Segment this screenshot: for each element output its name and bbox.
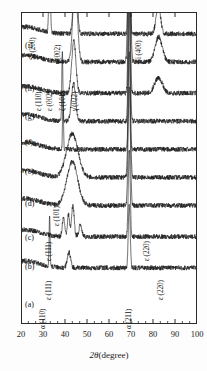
plot-area [21, 12, 197, 324]
x-tick-label-40: 40 [61, 329, 70, 339]
x-tick-label-60: 60 [105, 329, 114, 339]
peak-label-eps-002: ε (002) [46, 91, 54, 111]
x-tick-label-100: 100 [191, 329, 204, 339]
peak-label-eps-220-b: ε (220) [157, 280, 165, 300]
x-axis-label: 2θ(degree) [21, 350, 197, 360]
curve-id-label-i: (i) [25, 41, 33, 50]
peak-label-zeta-101: ζ (101) [59, 91, 67, 111]
peak-label-gamma-002: γ'(002) [54, 45, 62, 64]
curve-id-label-h: (h) [25, 84, 34, 93]
x-axis-tick-labels: 2030405060708090100 [21, 329, 197, 343]
peak-label-alpha-110: α (110) [39, 309, 47, 329]
x-tick-label-30: 30 [39, 329, 48, 339]
peak-label-eps-111-b: ε (111) [45, 281, 53, 300]
x-tick-label-20: 20 [17, 329, 26, 339]
curve-id-label-d: (d) [25, 199, 34, 208]
x-tick-label-80: 80 [149, 329, 158, 339]
curve-id-label-f: (f) [25, 138, 33, 147]
x-axis-label-unit: (degree) [98, 350, 128, 360]
curve-id-label-b: (b) [25, 262, 34, 271]
peak-label-eps-220-c: ε (220) [143, 241, 151, 261]
xrd-plot-svg [21, 12, 197, 324]
peak-label-alpha-211: α (211) [125, 309, 133, 329]
peak-label-si-400: Si (400) [135, 40, 143, 63]
curve-id-label-e: (e) [25, 167, 34, 176]
x-tick-label-90: 90 [171, 329, 180, 339]
xrd-figure: Intensity(arb. units) 203040506070809010… [0, 0, 207, 371]
peak-label-eps-101: ε (101) [53, 206, 61, 226]
peak-label-eps-111-c: ε (111) [45, 242, 53, 261]
curve-id-label-c: (c) [25, 233, 34, 242]
curve-id-label-g: (g) [25, 112, 34, 121]
curve-id-label-a: (a) [25, 300, 34, 309]
x-tick-label-70: 70 [127, 329, 136, 339]
peak-label-gamma-022: γ'(022) [71, 92, 79, 111]
peak-label-eps-110: ε (110) [35, 92, 43, 111]
x-tick-label-50: 50 [83, 329, 92, 339]
